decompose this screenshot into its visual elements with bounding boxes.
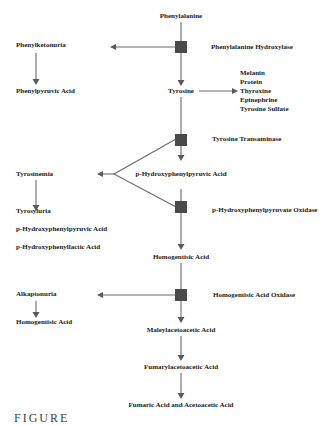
product-tyrosine-sulfate: Tyrosine Sulfate xyxy=(240,105,289,114)
arrowhead-left-icon xyxy=(97,171,103,177)
node-fumaric-and-acetoacetic-acid: Fumaric Acid and Acetoacetic Acid xyxy=(129,401,234,410)
arrowhead-down-icon xyxy=(178,80,185,86)
product-epinephrine: Epinephrine xyxy=(240,96,289,105)
disorder-tyrosinemia: Tyrosinemia xyxy=(16,170,53,179)
enzyme-tyrosine-transaminase: Tyrosine Transaminase xyxy=(212,135,281,144)
arrowhead-down-icon xyxy=(178,393,185,399)
arrowhead-down-icon xyxy=(178,355,185,361)
product-melanin: Melanin xyxy=(240,69,289,78)
tyrosine-products-list: Melanin Protein Thyroxine Epinephrine Ty… xyxy=(240,69,289,114)
enzyme-block-tat-icon xyxy=(175,134,187,146)
arrowhead-down-icon xyxy=(178,317,185,323)
arrowhead-left-icon xyxy=(110,44,116,50)
enzyme-p-hydroxyphenylpyruvate-oxidase: p-Hydroxyphenylpyruvate Oxidase xyxy=(212,206,317,215)
caption-figure-label: FIGURE xyxy=(14,411,69,425)
pku-product-phenylpyruvic-acid: Phenylpyruvic Acid xyxy=(16,87,75,96)
enzyme-phenylalanine-hydroxylase: Phenylalanine Hydroxylase xyxy=(211,43,293,52)
arrowhead-down-icon xyxy=(178,155,185,161)
disorder-phenylketonuria: Phenylketonuria xyxy=(16,41,66,50)
product-protein: Protein xyxy=(240,78,289,87)
figure-caption-partial: FIGURE xyxy=(14,411,69,426)
enzyme-block-hppd-icon xyxy=(175,201,187,213)
arrowhead-left-icon xyxy=(97,292,103,298)
node-tyrosine: Tyrosine xyxy=(168,87,194,96)
tyrosinemia-product-p-hydroxyphenylpyruvic-acid: p-Hydroxyphenylpyruvic Acid xyxy=(16,225,107,234)
node-homogentisic-acid: Homogentisic Acid xyxy=(153,253,209,262)
disorder-alkaptonuria: Alkaptonuria xyxy=(16,290,56,299)
product-thyroxine: Thyroxine xyxy=(240,87,289,96)
node-p-hydroxyphenylpyruvic-acid: p-Hydroxyphenylpyruvic Acid xyxy=(135,170,226,179)
node-maleylacetoacetic-acid: Maleylacetoacetic Acid xyxy=(147,326,216,335)
enzyme-block-pah-icon xyxy=(175,41,187,53)
arrowhead-right-icon xyxy=(232,88,238,94)
node-fumarylacetoacetic-acid: Fumarylacetoacetic Acid xyxy=(144,363,218,372)
tyrosinemia-product-p-hydroxyphenyllactic-acid: p-Hydroxyphenyllactic Acid xyxy=(16,243,100,252)
node-phenylalanine: Phenylalanine xyxy=(160,12,202,21)
alkaptonuria-product-homogentisic-acid: Homogentisic Acid xyxy=(16,318,72,327)
tyrosinemia-product-tyrosyluria: Tyrosyluria xyxy=(16,207,51,216)
arrowhead-down-icon xyxy=(178,244,185,250)
enzyme-homogentisic-acid-oxidase: Homogentisic Acid Oxidase xyxy=(213,291,295,300)
arrowhead-down-icon xyxy=(33,79,40,85)
enzyme-block-hgd-icon xyxy=(175,289,187,301)
